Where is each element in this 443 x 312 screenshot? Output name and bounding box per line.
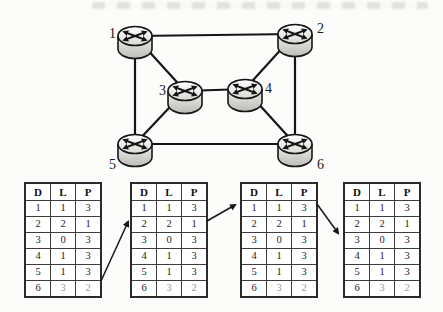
routing-table-row: 513	[131, 265, 207, 281]
cell-r3c3: 3	[76, 233, 102, 249]
cell-r4c1: 4	[241, 249, 267, 265]
routing-table-row: 513	[344, 265, 420, 281]
routing-table-row: 113	[131, 201, 207, 217]
cell-r2c3: 1	[182, 217, 208, 233]
routing-table-row: 513	[25, 265, 101, 281]
cell-r6c3: 2	[395, 281, 421, 298]
cell-r5c3: 3	[395, 265, 421, 281]
cell-r5c2: 1	[267, 265, 292, 281]
cell-r3c1: 3	[25, 233, 51, 249]
routing-table-row: 413	[241, 249, 317, 265]
cell-r4c3: 3	[182, 249, 208, 265]
cell-r2c2: 2	[267, 217, 292, 233]
routing-table-row: 221	[131, 217, 207, 233]
cell-r4c2: 1	[51, 249, 76, 265]
cell-r6c1: 6	[25, 281, 51, 298]
cell-r3c3: 3	[182, 233, 208, 249]
cell-r3c3: 3	[395, 233, 421, 249]
cell-r3c1: 3	[131, 233, 157, 249]
cell-r4c2: 1	[370, 249, 395, 265]
cell-r5c1: 5	[131, 265, 157, 281]
cell-r1c1: 1	[131, 201, 157, 217]
cell-r4c1: 4	[25, 249, 51, 265]
cell-r1c2: 1	[267, 201, 292, 217]
column-header-P: P	[395, 183, 421, 201]
cell-r1c3: 3	[395, 201, 421, 217]
cell-r5c3: 3	[292, 265, 318, 281]
routing-table-header: DLP	[131, 183, 207, 201]
routing-table-3: DLP113221303413513632	[240, 182, 318, 298]
routing-table-1: DLP113221303413513632	[24, 182, 102, 298]
cell-r2c2: 2	[51, 217, 76, 233]
cell-r2c3: 1	[76, 217, 102, 233]
cell-r5c2: 1	[51, 265, 76, 281]
column-header-P: P	[182, 183, 208, 201]
cell-r6c2: 3	[370, 281, 395, 298]
cell-r5c1: 5	[241, 265, 267, 281]
routing-table-2: DLP113221303413513632	[130, 182, 208, 298]
cell-r1c3: 3	[76, 201, 102, 217]
cell-r3c2: 0	[267, 233, 292, 249]
cell-r3c3: 3	[292, 233, 318, 249]
cell-r5c1: 5	[344, 265, 370, 281]
cell-r6c3: 2	[292, 281, 318, 298]
routing-table-row: 632	[241, 281, 317, 298]
routing-table-row: 413	[25, 249, 101, 265]
column-header-P: P	[292, 183, 318, 201]
cell-r1c3: 3	[292, 201, 318, 217]
routing-table-header: DLP	[241, 183, 317, 201]
routing-table-row: 221	[241, 217, 317, 233]
cell-r6c2: 3	[267, 281, 292, 298]
cell-r1c2: 1	[157, 201, 182, 217]
cell-r2c3: 1	[395, 217, 421, 233]
routing-table-header: DLP	[25, 183, 101, 201]
cell-r3c2: 0	[370, 233, 395, 249]
routing-table-row: 413	[131, 249, 207, 265]
cell-r1c1: 1	[241, 201, 267, 217]
cell-r2c2: 2	[370, 217, 395, 233]
column-header-L: L	[370, 183, 395, 201]
cell-r2c2: 2	[157, 217, 182, 233]
column-header-D: D	[344, 183, 370, 201]
routing-table-row: 113	[25, 201, 101, 217]
cell-r3c2: 0	[51, 233, 76, 249]
cell-r1c2: 1	[51, 201, 76, 217]
routing-table-row: 303	[344, 233, 420, 249]
cell-r5c1: 5	[25, 265, 51, 281]
cell-r5c3: 3	[76, 265, 102, 281]
cell-r2c1: 2	[344, 217, 370, 233]
cell-r4c1: 4	[131, 249, 157, 265]
routing-tables-group: DLP113221303413513632DLP1132213034135136…	[0, 0, 443, 312]
cell-r3c1: 3	[344, 233, 370, 249]
routing-table-row: 632	[344, 281, 420, 298]
routing-table-row: 632	[25, 281, 101, 298]
cell-r2c1: 2	[25, 217, 51, 233]
routing-table-row: 113	[241, 201, 317, 217]
routing-table-header: DLP	[344, 183, 420, 201]
cell-r3c1: 3	[241, 233, 267, 249]
cell-r6c1: 6	[241, 281, 267, 298]
routing-table-row: 221	[344, 217, 420, 233]
routing-table-row: 113	[344, 201, 420, 217]
routing-table-row: 632	[131, 281, 207, 298]
cell-r6c2: 3	[51, 281, 76, 298]
cell-r1c1: 1	[25, 201, 51, 217]
routing-table-row: 413	[344, 249, 420, 265]
routing-table-row: 303	[241, 233, 317, 249]
cell-r5c2: 1	[157, 265, 182, 281]
cell-r3c2: 0	[157, 233, 182, 249]
cell-r4c2: 1	[267, 249, 292, 265]
cell-r4c3: 3	[292, 249, 318, 265]
cell-r6c1: 6	[131, 281, 157, 298]
cell-r1c3: 3	[182, 201, 208, 217]
column-header-D: D	[131, 183, 157, 201]
column-header-L: L	[51, 183, 76, 201]
cell-r6c3: 2	[76, 281, 102, 298]
cell-r1c2: 1	[370, 201, 395, 217]
figure-canvas: 123456 DLP113221303413513632DLP113221303…	[0, 0, 443, 312]
cell-r2c1: 2	[131, 217, 157, 233]
column-header-L: L	[157, 183, 182, 201]
cell-r5c3: 3	[182, 265, 208, 281]
cell-r4c1: 4	[344, 249, 370, 265]
cell-r5c2: 1	[370, 265, 395, 281]
